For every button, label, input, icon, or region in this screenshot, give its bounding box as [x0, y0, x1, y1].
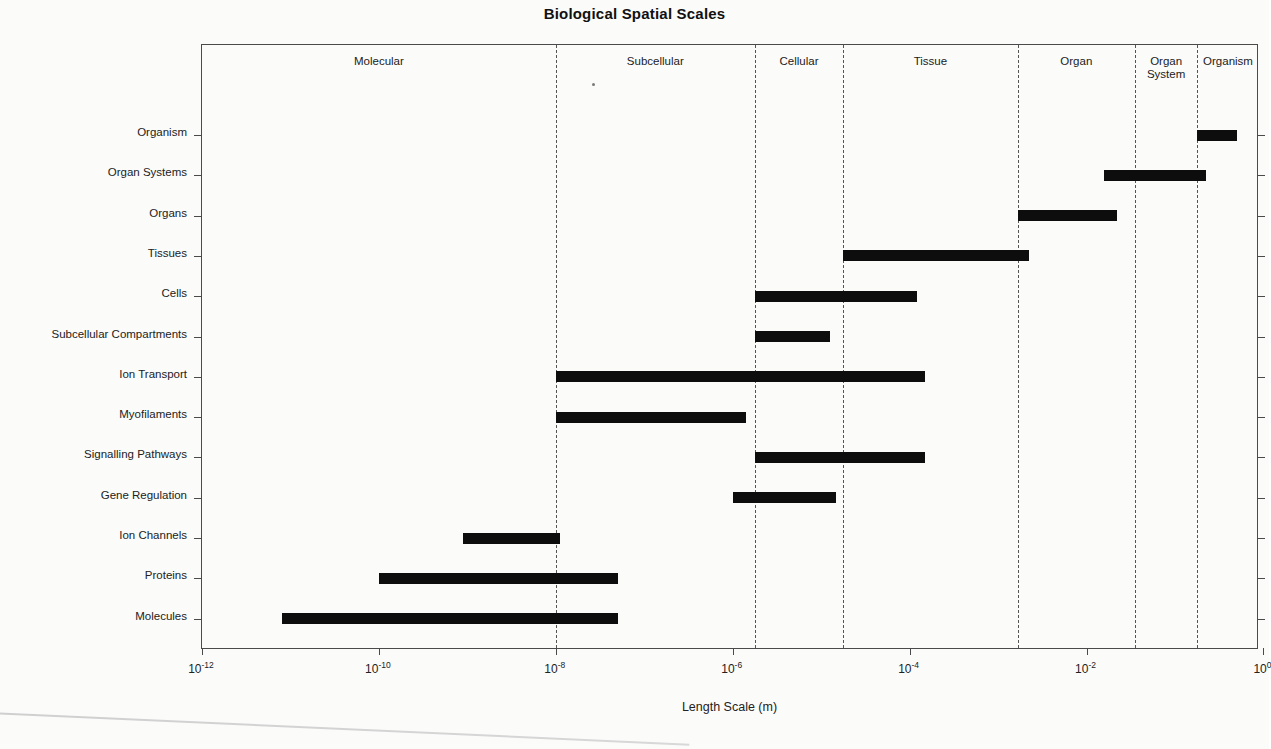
bar-ion-transport	[556, 371, 925, 382]
x-axis-tick	[910, 648, 911, 655]
x-axis-ticklabel: 10-10	[365, 662, 391, 676]
y-axis-tick	[194, 498, 202, 499]
bar-subcellular-compartments	[755, 331, 830, 342]
bar-cells	[755, 291, 917, 302]
y-axis-tick-right	[1257, 216, 1265, 217]
y-axis-tick-right	[1257, 538, 1265, 539]
y-axis-tick-right	[1257, 296, 1265, 297]
y-axis-tick	[194, 216, 202, 217]
bar-signalling-pathways	[755, 452, 925, 463]
bar-organs	[1018, 210, 1118, 221]
region-label-molecular: Molecular	[202, 55, 556, 68]
y-axis-tick	[194, 417, 202, 418]
x-axis-ticklabel: 10-4	[898, 662, 919, 676]
bar-ion-channels	[463, 533, 560, 544]
y-axis-tick	[194, 578, 202, 579]
y-axis-tick-right	[1257, 135, 1265, 136]
x-axis-tick	[202, 648, 203, 655]
region-divider-4	[1018, 45, 1019, 648]
y-axis-label-signalling-pathways: Signalling Pathways	[0, 448, 187, 460]
x-axis-title: Length Scale (m)	[201, 700, 1258, 714]
y-axis-tick-right	[1257, 457, 1265, 458]
region-label-tissue: Tissue	[843, 55, 1017, 68]
region-label-organism: Organism	[1197, 55, 1259, 68]
y-axis-label-organism: Organism	[0, 126, 187, 138]
x-axis-tick	[1087, 648, 1088, 655]
y-axis-tick	[194, 135, 202, 136]
y-axis-label-cells: Cells	[0, 287, 187, 299]
plot-area: MolecularSubcellularCellularTissueOrganO…	[201, 44, 1258, 649]
y-axis-tick	[194, 256, 202, 257]
y-axis-label-molecules: Molecules	[0, 610, 187, 622]
y-axis-tick	[194, 175, 202, 176]
bar-myofilaments	[556, 412, 746, 423]
y-axis-tick	[194, 377, 202, 378]
y-axis-tick-right	[1257, 417, 1265, 418]
y-axis-tick-right	[1257, 498, 1265, 499]
bar-molecules	[282, 613, 618, 624]
x-axis-tick	[556, 648, 557, 655]
region-divider-3	[843, 45, 844, 648]
y-axis-tick-right	[1257, 578, 1265, 579]
bar-organism	[1197, 130, 1237, 141]
x-axis-ticklabel: 10-12	[188, 662, 214, 676]
page-title: Biological Spatial Scales	[0, 5, 1269, 22]
y-axis-label-myofilaments: Myofilaments	[0, 408, 187, 420]
bar-organ-systems	[1104, 170, 1206, 181]
y-axis-tick-right	[1257, 256, 1265, 257]
bar-tissues	[843, 250, 1029, 261]
bar-gene-regulation	[733, 492, 836, 503]
y-axis-label-organ-systems: Organ Systems	[0, 166, 187, 178]
region-label-cellular: Cellular	[755, 55, 843, 68]
x-axis-tick	[1263, 648, 1264, 655]
y-axis-label-proteins: Proteins	[0, 569, 187, 581]
x-axis-tick	[379, 648, 380, 655]
y-axis-tick	[194, 619, 202, 620]
y-axis-label-organs: Organs	[0, 207, 187, 219]
y-axis-tick-right	[1257, 337, 1265, 338]
y-axis-label-subcellular-compartments: Subcellular Compartments	[0, 328, 187, 340]
y-axis-label-gene-regulation: Gene Regulation	[0, 489, 187, 501]
region-divider-2	[755, 45, 756, 648]
y-axis-label-ion-transport: Ion Transport	[0, 368, 187, 380]
x-axis-ticklabel: 10-2	[1075, 662, 1096, 676]
y-axis-label-ion-channels: Ion Channels	[0, 529, 187, 541]
x-axis-tick	[733, 648, 734, 655]
region-divider-1	[556, 45, 557, 648]
y-axis-tick-right	[1257, 175, 1265, 176]
y-axis-tick	[194, 538, 202, 539]
y-axis-tick	[194, 296, 202, 297]
y-axis-tick-right	[1257, 619, 1265, 620]
region-label-organ-system: Organ System	[1135, 55, 1197, 81]
region-label-organ: Organ	[1018, 55, 1136, 68]
y-axis-tick	[194, 337, 202, 338]
x-axis-ticklabel: 100	[1253, 662, 1271, 676]
bar-proteins	[379, 573, 618, 584]
y-axis-label-tissues: Tissues	[0, 247, 187, 259]
scan-speck	[592, 83, 595, 86]
x-axis-ticklabel: 10-6	[721, 662, 742, 676]
y-axis-tick	[194, 457, 202, 458]
region-divider-5	[1135, 45, 1136, 648]
y-axis-tick-right	[1257, 377, 1265, 378]
x-axis-ticklabel: 10-8	[544, 662, 565, 676]
region-label-subcellular: Subcellular	[556, 55, 755, 68]
